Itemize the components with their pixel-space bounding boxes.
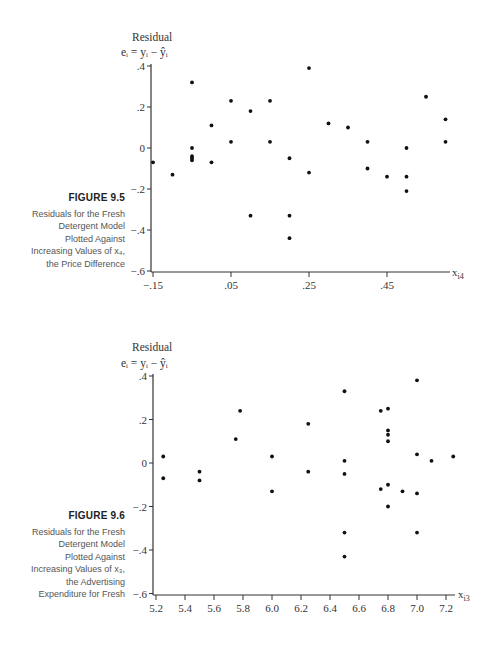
x-axis-label: xi4 bbox=[452, 266, 464, 281]
data-point bbox=[405, 146, 409, 150]
figure-9-6: FIGURE 9.6 Residuals for the Fresh Deter… bbox=[0, 320, 494, 651]
data-point bbox=[386, 433, 390, 437]
data-point bbox=[268, 99, 272, 103]
data-point bbox=[385, 175, 389, 179]
x-tick-label: 5.4 bbox=[178, 602, 192, 614]
x-tick-label: 7.0 bbox=[410, 602, 424, 614]
data-point bbox=[288, 236, 292, 240]
y-tick-label: .4 bbox=[139, 370, 148, 382]
scatter-plot: Residual eᵢ = yᵢ − ŷᵢ .4.20−.2−.4−.6−.15… bbox=[0, 0, 494, 320]
y-tick-label: 0 bbox=[142, 457, 148, 469]
data-point bbox=[288, 156, 292, 160]
data-point bbox=[444, 117, 448, 121]
x-tick-label: .25 bbox=[302, 279, 316, 291]
data-point bbox=[343, 472, 347, 476]
y-tick-label: −.2 bbox=[131, 183, 145, 195]
data-point bbox=[415, 492, 419, 496]
figure-9-5: FIGURE 9.5 Residuals for the Fresh Deter… bbox=[0, 0, 494, 320]
data-point bbox=[451, 455, 455, 459]
data-point bbox=[379, 487, 383, 491]
data-point bbox=[379, 409, 383, 413]
x-tick-label: 6.8 bbox=[381, 602, 395, 614]
x-tick-label: 6.4 bbox=[323, 602, 337, 614]
x-tick-label: 5.8 bbox=[236, 602, 250, 614]
data-point bbox=[366, 140, 370, 144]
data-point bbox=[171, 173, 175, 177]
data-point bbox=[270, 489, 274, 493]
data-point bbox=[198, 479, 202, 483]
data-point bbox=[229, 140, 233, 144]
data-point bbox=[386, 407, 390, 411]
x-tick-label: 7.2 bbox=[439, 602, 453, 614]
x-tick-label: .45 bbox=[380, 279, 394, 291]
data-point bbox=[401, 489, 405, 493]
x-axis-label: xi3 bbox=[458, 588, 470, 603]
y-axis-title: Residual bbox=[132, 341, 172, 353]
data-point bbox=[190, 146, 194, 150]
data-point bbox=[405, 189, 409, 193]
x-tick-label: 5.6 bbox=[207, 602, 221, 614]
y-tick-label: −.4 bbox=[133, 544, 148, 556]
data-point bbox=[386, 439, 390, 443]
data-point bbox=[444, 140, 448, 144]
axes: .4.20−.2−.4−.6−.15.05.25.45 bbox=[131, 60, 450, 291]
data-points bbox=[161, 378, 455, 558]
data-point bbox=[306, 470, 310, 474]
data-point bbox=[238, 409, 242, 413]
data-point bbox=[190, 81, 194, 85]
data-point bbox=[343, 459, 347, 463]
data-point bbox=[415, 378, 419, 382]
data-point bbox=[386, 428, 390, 432]
y-tick-label: 0 bbox=[140, 142, 146, 154]
data-point bbox=[346, 126, 350, 130]
y-tick-label: −.6 bbox=[131, 265, 146, 277]
y-axis-formula: eᵢ = yᵢ − ŷᵢ bbox=[121, 357, 168, 370]
axes: .4.20−.2−.4−.65.25.45.65.86.06.26.46.66.… bbox=[133, 370, 455, 614]
y-tick-label: −.2 bbox=[133, 501, 147, 513]
x-tick-label: 6.0 bbox=[265, 602, 279, 614]
data-point bbox=[234, 437, 238, 441]
data-point bbox=[405, 175, 409, 179]
data-point bbox=[306, 422, 310, 426]
data-point bbox=[343, 555, 347, 559]
y-tick-label: .2 bbox=[137, 101, 145, 113]
data-point bbox=[307, 171, 311, 175]
x-tick-label: 6.2 bbox=[294, 602, 308, 614]
data-point bbox=[161, 455, 165, 459]
data-point bbox=[307, 66, 311, 70]
data-point bbox=[386, 483, 390, 487]
y-tick-label: .4 bbox=[137, 60, 146, 72]
data-point bbox=[343, 531, 347, 535]
data-point bbox=[229, 99, 233, 103]
data-point bbox=[424, 95, 428, 99]
data-point bbox=[151, 160, 155, 164]
data-point bbox=[415, 531, 419, 535]
data-point bbox=[249, 109, 253, 113]
data-point bbox=[210, 124, 214, 128]
scatter-plot: Residual eᵢ = yᵢ − ŷᵢ .4.20−.2−.4−.65.25… bbox=[0, 320, 494, 651]
y-axis-title: Residual bbox=[132, 31, 172, 43]
data-point bbox=[343, 389, 347, 393]
data-point bbox=[430, 459, 434, 463]
x-tick-label: 5.2 bbox=[149, 602, 163, 614]
data-point bbox=[268, 140, 272, 144]
data-point bbox=[161, 476, 165, 480]
y-tick-label: .2 bbox=[139, 414, 147, 426]
data-point bbox=[415, 452, 419, 456]
data-points bbox=[151, 66, 447, 240]
data-point bbox=[210, 160, 214, 164]
data-point bbox=[288, 214, 292, 218]
data-point bbox=[198, 470, 202, 474]
data-point bbox=[327, 122, 331, 126]
data-point bbox=[386, 505, 390, 509]
x-tick-label: 6.6 bbox=[352, 602, 366, 614]
data-point bbox=[190, 158, 194, 162]
data-point bbox=[249, 214, 253, 218]
y-tick-label: −.6 bbox=[133, 588, 148, 600]
data-point bbox=[366, 167, 370, 171]
x-tick-label: −.15 bbox=[143, 279, 163, 291]
x-tick-label: .05 bbox=[224, 279, 238, 291]
y-axis-formula: eᵢ = yᵢ − ŷᵢ bbox=[121, 46, 168, 59]
y-tick-label: −.4 bbox=[131, 224, 146, 236]
data-point bbox=[270, 455, 274, 459]
